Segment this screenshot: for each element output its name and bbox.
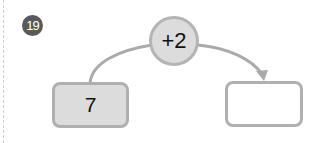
input-box: 7 bbox=[52, 82, 129, 128]
answer-box[interactable] bbox=[225, 81, 303, 127]
arrowhead-icon bbox=[256, 70, 268, 81]
operation-circle: +2 bbox=[149, 16, 199, 66]
input-connector bbox=[90, 45, 152, 83]
input-value: 7 bbox=[85, 93, 97, 117]
operation-label: +2 bbox=[161, 28, 186, 54]
output-connector bbox=[198, 45, 262, 74]
